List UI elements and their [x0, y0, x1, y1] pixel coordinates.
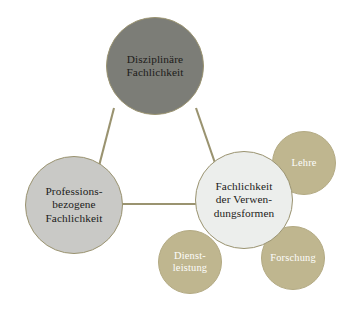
node-fachlichkeit-verwendungsformen: Fachlichkeit der Verwen- dungsformen	[195, 151, 293, 249]
node-dienstleistung-label: Dienst- leistung	[173, 250, 208, 275]
concept-diagram: Lehre Dienst- leistung Forschung Diszipl…	[0, 0, 358, 317]
node-disziplinaere-label: Disziplinäre Fachlichkeit	[126, 53, 183, 80]
edge-disziplinaere-professions	[99, 108, 114, 166]
node-professionsbezogene-fachlichkeit: Professions- bezogene Fachlichkeit	[25, 156, 123, 254]
edge-disziplinaere-verwendungsformen	[196, 108, 215, 163]
node-professions-label: Professions- bezogene Fachlichkeit	[45, 185, 102, 225]
node-forschung-label: Forschung	[270, 252, 316, 264]
node-lehre-label: Lehre	[291, 157, 316, 169]
node-disziplinaere-fachlichkeit: Disziplinäre Fachlichkeit	[106, 17, 204, 115]
node-verwendungsformen-label: Fachlichkeit der Verwen- dungsformen	[214, 180, 275, 220]
node-dienstleistung: Dienst- leistung	[158, 230, 222, 294]
